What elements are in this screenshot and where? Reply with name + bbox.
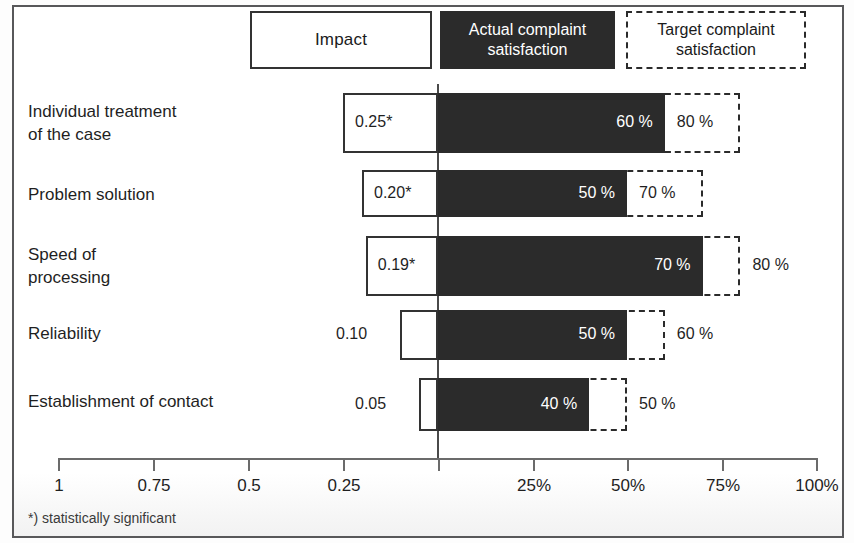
target-value-label: 70 % xyxy=(639,184,675,202)
chart-root: Impact Actual complaint satisfaction Tar… xyxy=(0,0,854,543)
impact-value-label: 0.19* xyxy=(378,256,415,274)
axis-tick-label: 100% xyxy=(795,476,838,496)
row-category-label: Speed of processing xyxy=(28,243,110,289)
legend-label-actual: Actual complaint satisfaction xyxy=(442,20,613,60)
axis-tick xyxy=(438,458,440,471)
axis-tick-label: 1 xyxy=(54,476,63,496)
legend-label-impact: Impact xyxy=(315,30,367,50)
footnote: *) statistically significant xyxy=(28,510,176,526)
actual-value-label: 40 % xyxy=(527,395,577,413)
legend-label-target: Target complaint satisfaction xyxy=(628,20,804,60)
impact-value-label: 0.10 xyxy=(336,325,367,343)
axis-tick xyxy=(248,458,250,471)
axis-tick xyxy=(153,458,155,471)
axis-tick xyxy=(343,458,345,471)
row-category-label: Reliability xyxy=(28,322,101,345)
actual-value-label: 70 % xyxy=(641,256,691,274)
axis-tick xyxy=(816,458,818,471)
legend-item-impact: Impact xyxy=(250,11,432,69)
row-category-label: Problem solution xyxy=(28,183,155,206)
axis-tick-label: 0.75 xyxy=(137,476,170,496)
axis-tick-label: 0.5 xyxy=(237,476,261,496)
actual-value-label: 50 % xyxy=(565,184,615,202)
row-category-label: Individual treatment of the case xyxy=(28,100,176,146)
impact-value-label: 0.05 xyxy=(355,395,386,413)
impact-value-label: 0.20* xyxy=(374,184,411,202)
axis-tick xyxy=(58,458,60,471)
legend-item-target-complaint-satisfaction: Target complaint satisfaction xyxy=(626,11,806,69)
legend-item-actual-complaint-satisfaction: Actual complaint satisfaction xyxy=(440,11,615,69)
target-value-label: 80 % xyxy=(752,256,788,274)
axis-tick xyxy=(722,458,724,471)
axis-tick xyxy=(627,458,629,471)
impact-bar xyxy=(400,310,438,360)
impact-value-label: 0.25* xyxy=(355,113,392,131)
impact-bar xyxy=(419,378,438,431)
actual-value-label: 50 % xyxy=(565,325,615,343)
target-value-label: 50 % xyxy=(639,395,675,413)
axis-tick-label: 50% xyxy=(611,476,645,496)
target-value-label: 80 % xyxy=(677,113,713,131)
actual-value-label: 60 % xyxy=(603,113,653,131)
row-category-label: Establishment of contact xyxy=(28,390,213,413)
target-value-label: 60 % xyxy=(677,325,713,343)
axis-tick-label: 25% xyxy=(517,476,551,496)
axis-tick-label: 75% xyxy=(706,476,740,496)
axis-tick xyxy=(533,458,535,471)
axis-tick-label: 0.25 xyxy=(327,476,360,496)
